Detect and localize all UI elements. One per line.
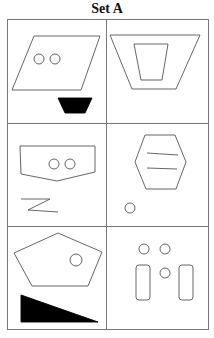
pentagon-shape xyxy=(14,233,102,286)
trapezoid-inner-shape xyxy=(134,44,168,80)
circle-shape xyxy=(65,159,75,169)
grid-lines xyxy=(8,20,209,330)
circle-shape xyxy=(160,268,170,278)
circle-shape xyxy=(139,244,149,254)
circle-shape xyxy=(49,159,59,169)
parallelogram-shape xyxy=(12,36,100,90)
trapezoid-outer-shape xyxy=(110,35,200,89)
circle-shape xyxy=(160,244,170,254)
cell-r3c1 xyxy=(14,233,102,322)
circle-shape xyxy=(50,54,60,64)
small-circle-shape xyxy=(125,203,135,213)
circle-shape xyxy=(70,254,82,266)
filled-trapezoid-shape xyxy=(58,98,92,113)
cell-r1c1 xyxy=(12,36,100,113)
cell-r3c2 xyxy=(136,244,193,300)
cell-r2c1 xyxy=(20,146,95,212)
zigzag-shape xyxy=(21,199,58,212)
banner-pentagon-shape xyxy=(20,146,95,181)
hexagon-shape xyxy=(135,135,186,189)
line-shape xyxy=(147,168,177,169)
rounded-rect-shape xyxy=(179,265,193,300)
figure-grid xyxy=(0,0,214,338)
cell-r2c2 xyxy=(125,135,186,213)
line-shape xyxy=(147,153,178,155)
rounded-rect-shape xyxy=(136,265,150,300)
circle-shape xyxy=(34,54,44,64)
cell-r1c2 xyxy=(110,35,200,89)
filled-triangle-shape xyxy=(21,295,98,322)
